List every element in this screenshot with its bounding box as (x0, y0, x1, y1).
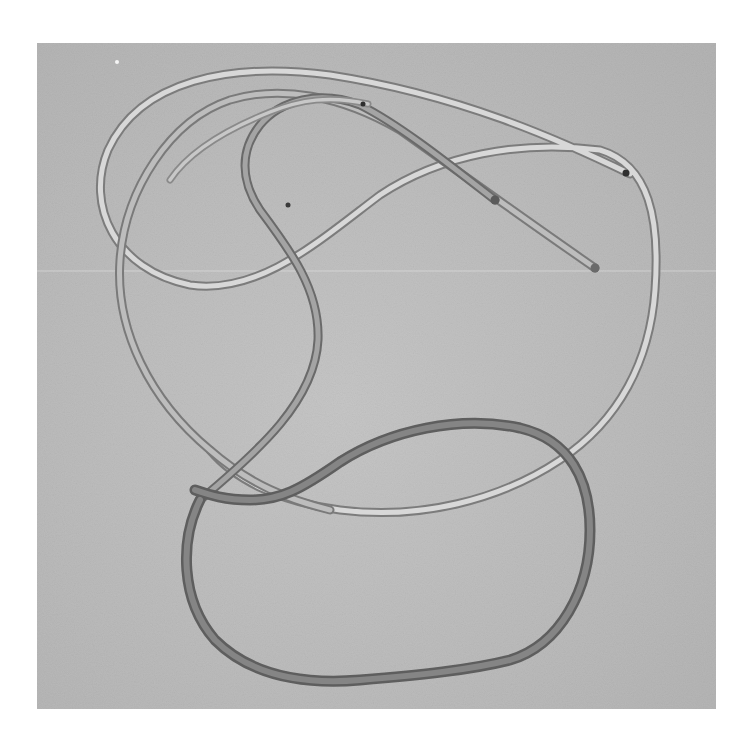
background-surface (37, 43, 716, 709)
tube-end-3 (491, 196, 500, 205)
tube-dark-spot (361, 102, 366, 107)
tube-end-2 (623, 170, 630, 177)
tangled-tube-photo (37, 43, 716, 709)
photo-frame (37, 43, 716, 709)
tube-end-1 (591, 264, 600, 273)
tube-dark-spot-2 (286, 203, 291, 208)
dust-speck (115, 60, 119, 64)
